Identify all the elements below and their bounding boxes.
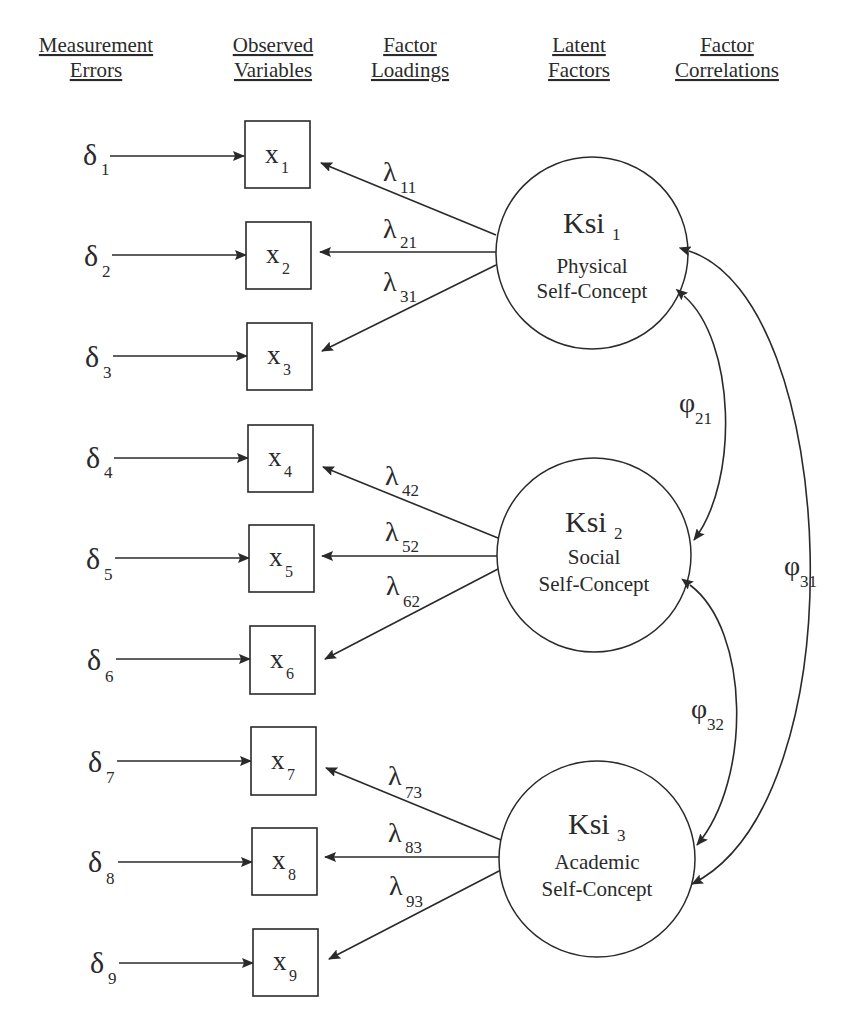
lambda-symbol: λ xyxy=(383,213,397,244)
observed-x9: x 9 xyxy=(253,929,318,996)
observed-x1: x 1 xyxy=(245,121,310,188)
factor-subscript: 2 xyxy=(614,524,623,543)
loading-arrow xyxy=(329,870,501,959)
delta-symbol: δ xyxy=(86,542,100,575)
delta-symbol: δ xyxy=(86,441,100,474)
error-8: δ 8 xyxy=(88,845,252,888)
variable-subscript: 2 xyxy=(282,260,290,277)
phi-subscript: 21 xyxy=(695,409,712,428)
delta-symbol: δ xyxy=(87,643,101,676)
factor-ksi-3: Ksi 3 Academic Self-Concept xyxy=(499,761,695,957)
loading-lambda-31: λ 31 xyxy=(322,265,496,351)
lambda-subscript: 52 xyxy=(402,537,419,556)
variable-subscript: 1 xyxy=(281,159,289,176)
phi-symbol: φ xyxy=(679,387,695,418)
measurement-errors: δ 1 δ 2 δ 3 δ 4 δ 5 δ 6 δ xyxy=(83,138,253,988)
variable-subscript: 7 xyxy=(287,766,295,783)
delta-symbol: δ xyxy=(83,138,97,171)
delta-symbol: δ xyxy=(84,239,98,272)
lambda-subscript: 83 xyxy=(405,838,422,857)
header-line2: Correlations xyxy=(675,58,779,82)
error-4: δ 4 xyxy=(86,441,248,482)
factor-ksi-2: Ksi 2 Social Self-Concept xyxy=(497,458,691,652)
delta-subscript: 9 xyxy=(108,969,117,988)
variable-subscript: 6 xyxy=(286,665,294,682)
error-5: δ 5 xyxy=(86,542,249,584)
delta-subscript: 2 xyxy=(102,262,111,281)
loading-arrow xyxy=(323,467,498,538)
phi-symbol: φ xyxy=(691,693,707,724)
factor-subscript: 1 xyxy=(612,225,621,244)
loading-arrow xyxy=(326,768,501,840)
factor-label-line2: Self-Concept xyxy=(542,877,653,901)
variable-subscript: 8 xyxy=(288,866,296,883)
variable-symbol: x xyxy=(267,340,281,370)
header-line2: Errors xyxy=(70,58,122,82)
lambda-subscript: 93 xyxy=(406,892,423,911)
loading-lambda-93: λ 93 xyxy=(329,870,501,959)
factor-label-line2: Self-Concept xyxy=(539,572,650,596)
lambda-symbol: λ xyxy=(388,760,402,791)
phi-subscript: 31 xyxy=(800,572,817,591)
variable-symbol: x xyxy=(265,139,279,169)
delta-symbol: δ xyxy=(90,946,104,979)
observed-x3: x 3 xyxy=(247,323,312,390)
factor-label-line1: Physical xyxy=(556,254,627,278)
cfa-path-diagram: Measurement Errors Observed Variables Fa… xyxy=(0,0,853,1019)
header-line1: Observed xyxy=(233,33,314,57)
factor-name: Ksi xyxy=(565,505,607,538)
lambda-subscript: 73 xyxy=(405,783,422,802)
observed-variables: x 1 x 2 x 3 x 4 x 5 x 6 x xyxy=(245,121,318,996)
lambda-symbol: λ xyxy=(388,817,402,848)
header-observed-variables: Observed Variables xyxy=(233,33,314,82)
correlation-phi-31: φ 31 xyxy=(689,251,817,884)
loading-lambda-42: λ 42 xyxy=(323,460,498,538)
column-headers: Measurement Errors Observed Variables Fa… xyxy=(39,33,779,82)
lambda-symbol: λ xyxy=(385,516,399,547)
loading-lambda-21: λ 21 xyxy=(320,213,496,252)
variable-subscript: 3 xyxy=(283,361,291,378)
delta-subscript: 5 xyxy=(104,565,113,584)
loading-lambda-83: λ 83 xyxy=(325,817,501,857)
lambda-symbol: λ xyxy=(383,156,397,187)
delta-subscript: 1 xyxy=(101,160,110,179)
lambda-subscript: 31 xyxy=(400,287,417,306)
factor-label-line1: Social xyxy=(568,545,621,569)
variable-symbol: x xyxy=(268,442,282,472)
variable-subscript: 4 xyxy=(284,463,292,480)
error-1: δ 1 xyxy=(83,138,244,179)
lambda-symbol: λ xyxy=(389,870,403,901)
lambda-symbol: λ xyxy=(386,570,400,601)
header-latent-factors: Latent Factors xyxy=(548,33,610,82)
factor-correlations: φ 21 φ 32 φ 31 xyxy=(679,251,817,884)
delta-subscript: 6 xyxy=(105,667,114,686)
variable-subscript: 5 xyxy=(285,563,293,580)
variable-symbol: x xyxy=(270,644,284,674)
error-3: δ 3 xyxy=(85,340,247,382)
delta-subscript: 3 xyxy=(103,363,112,382)
observed-x2: x 2 xyxy=(246,222,311,289)
observed-x8: x 8 xyxy=(252,828,317,895)
lambda-subscript: 21 xyxy=(400,233,417,252)
error-2: δ 2 xyxy=(84,239,246,281)
header-factor-correlations: Factor Correlations xyxy=(675,33,779,82)
loading-arrow xyxy=(325,569,498,659)
header-line1: Latent xyxy=(552,33,606,57)
delta-symbol: δ xyxy=(85,340,99,373)
loading-arrow xyxy=(321,163,496,235)
phi-symbol: φ xyxy=(784,550,800,581)
header-line2: Factors xyxy=(548,58,610,82)
error-6: δ 6 xyxy=(87,643,250,686)
variable-symbol: x xyxy=(266,239,280,269)
factor-name: Ksi xyxy=(568,807,610,840)
factor-circle xyxy=(496,157,688,349)
delta-symbol: δ xyxy=(88,745,102,778)
observed-x5: x 5 xyxy=(249,525,314,592)
delta-subscript: 4 xyxy=(104,463,113,482)
lambda-subscript: 42 xyxy=(402,481,419,500)
header-line2: Variables xyxy=(234,58,312,82)
variable-symbol: x xyxy=(271,745,285,775)
delta-subscript: 8 xyxy=(106,869,115,888)
error-9: δ 9 xyxy=(90,946,253,988)
header-line1: Factor xyxy=(700,33,754,57)
